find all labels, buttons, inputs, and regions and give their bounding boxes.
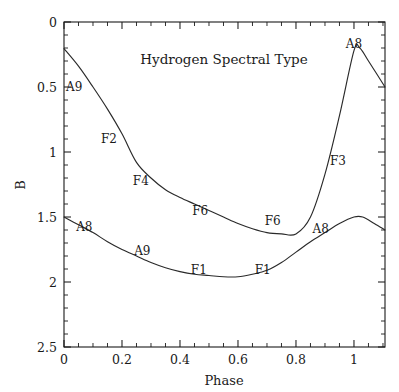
x-tick-label: 0.4 (170, 352, 190, 367)
x-tick-label: 0.8 (286, 352, 306, 367)
curve-annotation: F2 (101, 132, 117, 146)
y-tick-label: 0.5 (37, 80, 57, 95)
curve-annotation: F6 (265, 214, 281, 228)
y-tick-label: 1 (49, 145, 57, 160)
y-tick-label: 1.5 (37, 210, 57, 225)
x-tick-label: 1 (350, 352, 358, 367)
chart-figure: 00.20.40.60.81 00.511.522.5 A9F2F4F6F6F3… (0, 0, 399, 392)
chart-svg: 00.20.40.60.81 00.511.522.5 A9F2F4F6F6F3… (0, 0, 399, 392)
curve-annotation: F1 (255, 263, 271, 277)
curve-annotation: F4 (133, 174, 149, 188)
curve-annotation: F3 (330, 154, 346, 168)
x-tick-label: 0 (60, 352, 68, 367)
y-tick-label: 2 (49, 275, 57, 290)
y-axis-label: B (13, 180, 28, 190)
curve-annotation: A8 (75, 220, 92, 234)
curve-annotation: A8 (311, 222, 328, 236)
curve-annotation: A9 (133, 244, 150, 258)
y-tick-label: 0 (49, 15, 57, 30)
curve-annotation: A9 (65, 80, 82, 94)
x-tick-label: 0.2 (112, 352, 132, 367)
curve-annotation: A8 (345, 37, 362, 51)
x-axis-label: Phase (204, 373, 244, 388)
curve-annotation: F1 (191, 263, 207, 277)
y-tick-label: 2.5 (37, 340, 57, 355)
curve-annotation: F6 (192, 204, 208, 218)
chart-title: Hydrogen Spectral Type (140, 51, 307, 67)
x-tick-label: 0.6 (228, 352, 248, 367)
